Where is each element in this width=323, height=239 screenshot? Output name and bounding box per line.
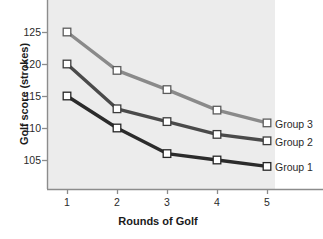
x-tick-label-3: 3 [155,196,179,208]
legend-label-group-3: Group 3 [275,118,313,130]
x-axis-title: Rounds of Golf [47,215,269,227]
x-tick-label-2: 2 [105,196,129,208]
x-tick-label-4: 4 [205,196,229,208]
y-axis-title: Golf score (strokes) [18,14,30,174]
x-tick-label-5: 5 [255,196,279,208]
x-tick-label-1: 1 [55,196,79,208]
golf-score-line-chart: 125 120 115 110 105 1 2 3 4 5 Golf score… [0,0,323,239]
y-axis-ticks [42,33,47,161]
legend-label-group-2: Group 2 [275,136,313,148]
legend-label-group-1: Group 1 [275,161,313,173]
plot-area-background [47,0,275,189]
